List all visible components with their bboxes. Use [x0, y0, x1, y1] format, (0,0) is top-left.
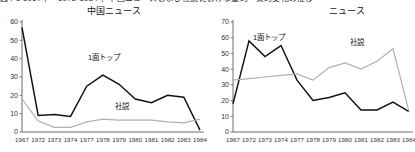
y-axis-tick-label: 30	[10, 73, 18, 80]
series-annotation-label: 社説	[115, 101, 130, 111]
x-axis-tick-label: 1979	[322, 136, 336, 143]
y-axis-tick-label: 60	[10, 18, 18, 25]
series-line-front-page-top	[233, 41, 409, 112]
series-line-editorial	[22, 99, 200, 127]
x-axis-tick-label: 1982	[161, 136, 175, 143]
y-axis-tick-label: 70	[221, 18, 229, 25]
series-annotation-label: 1面トップ	[253, 33, 286, 42]
y-axis-tick-label: 10	[221, 113, 229, 120]
chart-panel-china-news: 中国ニュース 010203040506019671972197319741977…	[0, 4, 208, 152]
x-axis-tick-label: 1972	[242, 136, 256, 143]
series-annotation-label: 1面トップ	[88, 53, 121, 62]
x-axis-tick-label: 1973	[258, 136, 272, 143]
chart-plot-left: 0102030405060196719721973197419771978197…	[0, 4, 208, 152]
series-line-editorial	[233, 49, 409, 112]
x-axis-tick-label: 1984	[402, 136, 415, 143]
y-axis-tick-label: 50	[10, 37, 18, 44]
y-axis-tick-label: 20	[221, 97, 229, 104]
chart-plot-right: 0102030405060701967197219731974197719781…	[207, 4, 415, 152]
x-axis-tick-label: 1984	[193, 136, 207, 143]
x-axis-tick-label: 1980	[128, 136, 142, 143]
y-axis-tick-label: 30	[221, 81, 229, 88]
x-axis-tick-label: 1978	[96, 136, 110, 143]
x-axis-tick-label: 1980	[338, 136, 352, 143]
y-axis-tick-label: 50	[221, 50, 229, 57]
x-axis-tick-label: 1981	[354, 136, 368, 143]
x-axis-tick-label: 1973	[47, 136, 61, 143]
y-axis-tick-label: 10	[10, 110, 18, 117]
x-axis-tick-label: 1982	[370, 136, 384, 143]
y-axis-tick-label: 0	[14, 128, 18, 135]
figure-container: 図4-1 1967年・1972-1984年 中国ニュースおよび社説における量的・…	[0, 0, 415, 152]
x-axis-tick-label: 1967	[226, 136, 240, 143]
y-axis-tick-label: 40	[221, 66, 229, 73]
figure-caption-text: 図4-1 1967年・1972-1984年 中国ニュースおよび社説における量的・…	[0, 0, 313, 3]
x-axis-tick-label: 1967	[15, 136, 29, 143]
x-axis-tick-label: 1983	[386, 136, 400, 143]
x-axis-tick-label: 1977	[80, 136, 94, 143]
x-axis-tick-label: 1972	[31, 136, 45, 143]
x-axis-tick-label: 1977	[290, 136, 304, 143]
y-axis-tick-label: 20	[10, 92, 18, 99]
series-annotation-label: 社説	[350, 37, 365, 47]
series-line-front-page-top	[22, 28, 200, 131]
x-axis-tick-label: 1979	[112, 136, 126, 143]
x-axis-tick-label: 1983	[177, 136, 191, 143]
y-axis-tick-label: 60	[221, 34, 229, 41]
chart-panel-news: ニュース 01020304050607019671972197319741977…	[207, 4, 415, 152]
x-axis-tick-label: 1974	[274, 136, 288, 143]
y-axis-tick-label: 0	[225, 128, 229, 135]
x-axis-tick-label: 1978	[306, 136, 320, 143]
y-axis-tick-label: 40	[10, 55, 18, 62]
x-axis-tick-label: 1974	[64, 136, 78, 143]
x-axis-tick-label: 1981	[145, 136, 159, 143]
